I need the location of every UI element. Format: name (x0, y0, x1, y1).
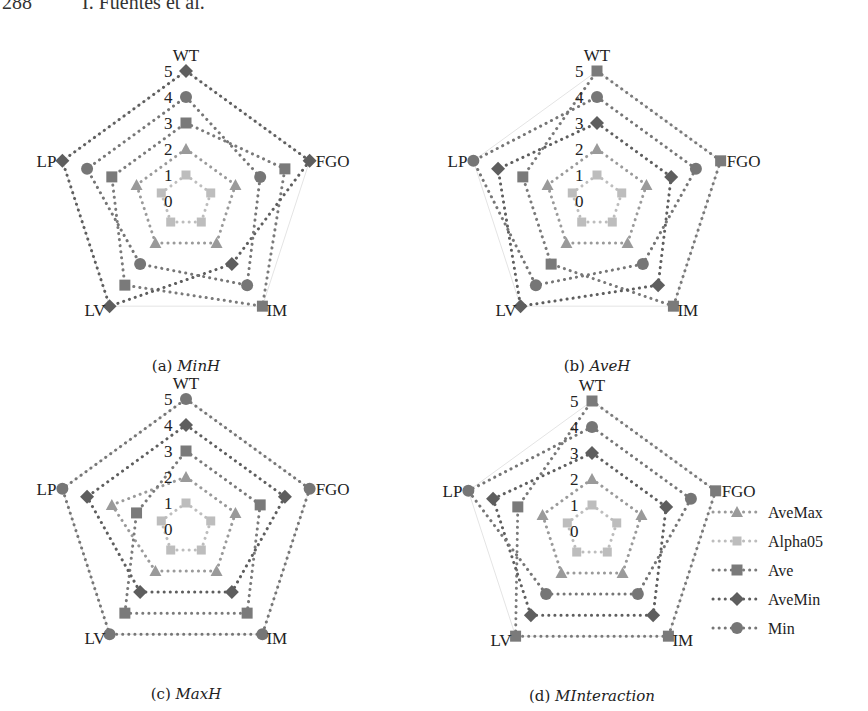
avemin-marker-diamond (55, 154, 69, 168)
axis-label-lv: LV (84, 301, 106, 320)
axis-label-lv: LV (84, 629, 106, 648)
min-marker-circle (690, 163, 702, 175)
axis-label-fgo: FGO (316, 480, 350, 499)
tick-label: 4 (164, 88, 173, 107)
radar-panel-c: 012345WTFGOIMLVLP(c) MaxH (37, 374, 350, 703)
avemin-marker-diamond (651, 278, 665, 292)
min-marker-circle (180, 393, 192, 405)
series-line-avemin (62, 71, 309, 306)
alpha05-marker-small-square (197, 218, 206, 227)
axis-label-fgo: FGO (727, 152, 761, 171)
tick-label: 0 (164, 192, 173, 211)
tick-label: 2 (164, 140, 173, 159)
legend-item-min: Min (713, 620, 795, 637)
avemax-marker-triangle (211, 237, 223, 248)
min-marker-circle (462, 485, 474, 497)
alpha05-marker-small-square (166, 546, 175, 555)
series-line-ave (112, 123, 285, 306)
tick-label: 4 (164, 416, 173, 435)
ave-marker-square (106, 171, 117, 182)
axis-label-im: IM (266, 629, 287, 648)
tick-label: 2 (575, 140, 584, 159)
ave-marker-square (592, 66, 603, 77)
axis-label-lp: LP (448, 152, 468, 171)
axis-label-im: IM (266, 301, 287, 320)
legend-label: AveMax (768, 504, 823, 521)
tick-label: 5 (164, 62, 173, 81)
series-line-min (468, 427, 691, 594)
avemax-marker-triangle (149, 237, 161, 248)
panel-caption: (c) MaxH (151, 685, 223, 703)
ave-marker-square (715, 155, 726, 166)
radar-panel-a: 012345WTFGOIMLVLP(a) MinH (37, 46, 350, 375)
legend-marker-small-square (733, 537, 742, 546)
min-marker-circle (637, 258, 649, 270)
ave-marker-square (517, 171, 528, 182)
avemin-marker-diamond (225, 585, 239, 599)
min-marker-circle (81, 163, 93, 175)
min-marker-circle (134, 258, 146, 270)
axis-label-wt: WT (173, 374, 200, 393)
ave-marker-square (131, 507, 142, 518)
alpha05-marker-small-square (612, 518, 621, 527)
axis-label-lp: LP (443, 482, 463, 501)
avemax-marker-triangle (180, 471, 192, 482)
axis-label-im: IM (677, 301, 698, 320)
chart-legend: AveMaxAlpha05AveAveMinMin (713, 504, 823, 637)
min-marker-circle (254, 171, 266, 183)
min-marker-circle (180, 91, 192, 103)
alpha05-marker-small-square (577, 218, 586, 227)
avemin-marker-diamond (646, 608, 660, 622)
legend-label: Alpha05 (768, 533, 823, 551)
panel-caption: (b) AveH (564, 357, 632, 375)
avemax-marker-triangle (591, 143, 603, 154)
alpha05-marker-small-square (588, 501, 597, 510)
alpha05-marker-small-square (593, 171, 602, 180)
legend-item-ave: Ave (713, 562, 793, 579)
min-marker-circle (685, 493, 697, 505)
min-marker-circle (540, 588, 552, 600)
panel-caption: (a) MinH (152, 357, 221, 375)
tick-label: 5 (164, 390, 173, 409)
tick-label: 2 (570, 470, 579, 489)
alpha05-marker-small-square (617, 188, 626, 197)
tick-label: 2 (164, 468, 173, 487)
avemax-marker-triangle (622, 237, 634, 248)
alpha05-marker-small-square (182, 171, 191, 180)
avemax-marker-triangle (555, 567, 567, 578)
ave-marker-square (119, 280, 130, 291)
avemax-marker-triangle (211, 565, 223, 576)
ave-marker-square (510, 631, 521, 642)
tick-label: 4 (575, 88, 584, 107)
axis-label-fgo: FGO (316, 152, 350, 171)
min-marker-circle (591, 91, 603, 103)
min-marker-circle (586, 421, 598, 433)
ave-marker-square (710, 485, 721, 496)
tick-label: 5 (570, 392, 579, 411)
series-line-avemax (548, 149, 647, 243)
ave-marker-square (587, 396, 598, 407)
axis-label-lv: LV (495, 301, 517, 320)
radar-panel-d: 012345WTFGOIMLVLP(d) MInteraction (443, 376, 756, 705)
ave-marker-square (546, 259, 557, 270)
tick-label: 3 (575, 114, 584, 133)
avemax-marker-triangle (560, 237, 572, 248)
alpha05-marker-small-square (182, 499, 191, 508)
tick-label: 3 (164, 442, 173, 461)
avemax-marker-triangle (617, 567, 629, 578)
avemin-marker-diamond (486, 492, 500, 506)
axis-label-wt: WT (173, 46, 200, 65)
legend-label: Ave (768, 562, 793, 579)
avemin-marker-diamond (133, 585, 147, 599)
series-line-avemax (137, 149, 236, 243)
avemax-marker-triangle (586, 473, 598, 484)
ave-marker-square (242, 608, 253, 619)
avemax-marker-triangle (180, 143, 192, 154)
min-marker-circle (241, 279, 253, 291)
series-line-avemax (112, 477, 236, 571)
axis-label-wt: WT (579, 376, 606, 395)
avemax-marker-triangle (106, 499, 118, 510)
radar-figure: 012345WTFGOIMLVLP(a) MinH 012345WTFGOIML… (0, 0, 868, 711)
series-line-ave (125, 451, 260, 613)
legend-marker-square (732, 565, 743, 576)
